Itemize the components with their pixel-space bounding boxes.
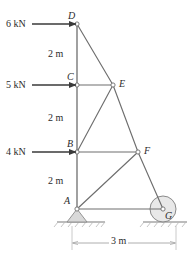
- truss-figure: D C B A E F G 6 kN 5 kN 4 kN 2 m 2 m 2 m…: [0, 0, 191, 259]
- ground-left: [54, 222, 105, 227]
- joint-E: [111, 83, 115, 87]
- truss-drawing-canvas: [0, 0, 191, 259]
- dimension-A-to-G: [72, 226, 176, 250]
- member-D-E: [77, 24, 113, 85]
- load-arrows: [32, 24, 76, 152]
- member-B-E: [77, 85, 113, 152]
- ground-right: [140, 222, 187, 227]
- member-E-F: [113, 85, 138, 152]
- joint-F: [136, 150, 140, 154]
- truss-members: [77, 24, 163, 209]
- member-A-F: [77, 152, 138, 209]
- member-F-G: [138, 152, 163, 209]
- joint-G: [161, 207, 165, 211]
- joint-A: [75, 207, 79, 211]
